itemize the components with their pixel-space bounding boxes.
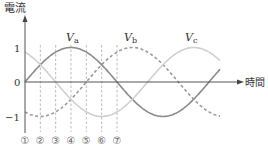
y-axis-arrow-icon [23, 15, 28, 22]
marker-label: ⑦ [113, 135, 122, 146]
marker-label: ④ [67, 135, 76, 146]
marker-label: ⑤ [82, 135, 91, 146]
marker-label: ③ [51, 135, 60, 146]
ytick-1: 1 [14, 43, 20, 54]
marker-label: ① [21, 135, 30, 146]
label-vb: Vb [124, 31, 137, 45]
ytick-0: 0 [14, 77, 20, 88]
marker-label: ② [36, 135, 45, 146]
marker-guide-lines [40, 45, 117, 132]
three-phase-current-diagram: 電流 時間 1 0 −1 Va Vb Vc ①②③④⑤⑥⑦ [0, 0, 268, 159]
x-axis-arrow-icon [237, 80, 244, 85]
y-axis-label: 電流 [4, 1, 26, 15]
marker-label: ⑥ [97, 135, 106, 146]
x-axis-label: 時間 [245, 77, 265, 88]
time-markers: ①②③④⑤⑥⑦ [21, 135, 122, 146]
ytick-minus-1: −1 [5, 112, 20, 123]
label-vc: Vc [185, 31, 198, 45]
label-va: Va [66, 31, 79, 45]
